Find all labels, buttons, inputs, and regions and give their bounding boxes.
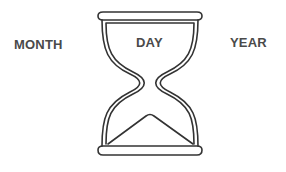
year-label: YEAR — [230, 36, 267, 49]
hourglass-icon — [0, 0, 286, 172]
hourglass-top-cap — [98, 12, 202, 20]
hourglass-sand — [108, 115, 193, 145]
day-label: DAY — [136, 36, 163, 49]
hourglass-bottom-cap — [98, 146, 202, 155]
month-label: MONTH — [14, 38, 63, 51]
